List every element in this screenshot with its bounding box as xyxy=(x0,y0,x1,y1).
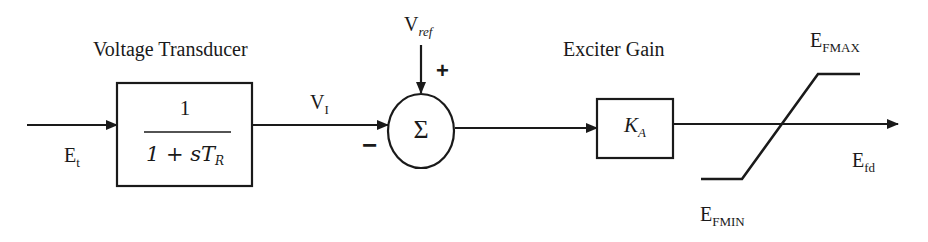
efmin-main: E xyxy=(700,203,712,225)
tf-denominator: 1 + sTR xyxy=(118,142,252,168)
efmax-sub: FMAX xyxy=(822,40,860,55)
vref-sub: ref xyxy=(418,24,432,39)
ka-main: K xyxy=(624,113,638,137)
vref-main: V xyxy=(404,13,418,35)
gain-value: KA xyxy=(598,113,672,141)
efmin-sub: FMIN xyxy=(712,214,745,229)
efmax-main: E xyxy=(810,29,822,51)
efd-signal-label: Efd xyxy=(852,150,875,174)
minus-sign: − xyxy=(362,130,377,161)
tf-numerator: 1 xyxy=(118,96,252,121)
plus-sign: + xyxy=(436,58,449,84)
exciter-gain-label: Exciter Gain xyxy=(563,39,665,59)
efmax-label: EFMAX xyxy=(810,30,860,54)
vref-signal-label: Vref xyxy=(404,14,432,38)
voltage-transducer-label: Voltage Transducer xyxy=(93,39,248,59)
efmin-label: EFMIN xyxy=(700,204,745,228)
limiter-characteristic xyxy=(701,74,860,179)
vi-sub: I xyxy=(324,102,328,117)
vi-signal-label: VI xyxy=(310,92,329,116)
input-signal-label: Et xyxy=(64,145,80,169)
efd-main: E xyxy=(852,149,864,171)
vi-main: V xyxy=(310,91,324,113)
et-sub: t xyxy=(76,155,80,170)
et-main: E xyxy=(64,144,76,166)
tf-denominator-main: 1 + sT xyxy=(146,142,215,166)
tf-denominator-sub: R xyxy=(215,154,224,168)
sigma-symbol: Σ xyxy=(404,115,438,145)
transfer-function: 1 1 + sTR xyxy=(118,84,252,186)
efd-sub: fd xyxy=(864,160,875,175)
ka-sub: A xyxy=(638,125,646,140)
